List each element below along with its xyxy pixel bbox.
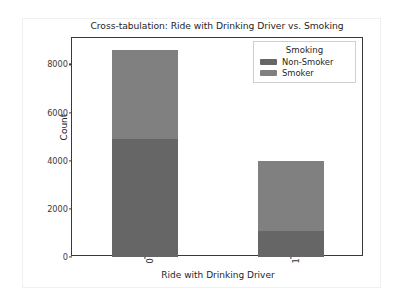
bar-segment	[258, 231, 324, 257]
x-tick-label: 1	[291, 258, 301, 263]
y-tick-label: 2000	[47, 204, 68, 214]
y-tick-mark	[69, 64, 73, 65]
y-tick-label: 8000	[47, 59, 68, 69]
x-axis-label: Ride with Drinking Driver	[72, 270, 364, 280]
bar-segment	[112, 139, 178, 257]
legend-item[interactable]: Non-Smoker	[260, 57, 349, 67]
legend-swatch-icon	[260, 59, 277, 65]
plot-area: Count Ride with Drinking Driver 02000400…	[71, 37, 363, 256]
legend-swatch-icon	[260, 70, 277, 76]
legend-item-label: Non-Smoker	[282, 57, 333, 67]
legend-item-label: Smoker	[282, 68, 314, 78]
plot-inner: Count Ride with Drinking Driver 02000400…	[72, 38, 362, 255]
x-tick-label: 0	[145, 258, 155, 263]
y-tick-label: 0	[63, 252, 68, 262]
y-tick-label: 4000	[47, 156, 68, 166]
y-tick-label: 6000	[47, 108, 68, 118]
figure: Cross-tabulation: Ride with Drinking Dri…	[0, 0, 403, 305]
bar-segment	[112, 50, 178, 139]
bar-segment	[258, 161, 324, 232]
legend-item[interactable]: Smoker	[260, 68, 349, 78]
legend-title: Smoking	[260, 45, 349, 55]
legend-rows: Non-SmokerSmoker	[260, 57, 349, 78]
y-axis-label: Count	[59, 97, 69, 157]
y-tick-mark	[69, 208, 73, 209]
legend: Smoking Non-SmokerSmoker	[253, 41, 356, 83]
y-tick-mark	[69, 160, 73, 161]
chart-title: Cross-tabulation: Ride with Drinking Dri…	[71, 20, 363, 31]
y-tick-mark	[69, 112, 73, 113]
y-tick-mark	[69, 256, 73, 257]
